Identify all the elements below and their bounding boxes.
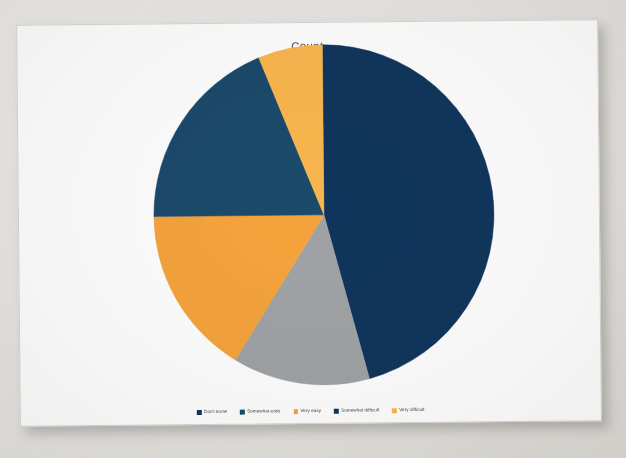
- legend-item-label: Somewhat difficult: [341, 409, 379, 414]
- legend-swatch-icon: [392, 409, 397, 414]
- legend-swatch-icon: [293, 410, 298, 415]
- pie-chart-svg: [150, 41, 497, 388]
- legend-item-label: Very difficult: [399, 408, 424, 413]
- legend-item[interactable]: Very easy: [293, 409, 321, 414]
- legend-item[interactable]: Somewhat difficult: [334, 409, 379, 414]
- legend-item-label: Don't know: [204, 410, 227, 415]
- legend-item-label: Somewhat easy: [247, 410, 280, 415]
- legend: Don't knowSomewhat easyVery easySomewhat…: [21, 407, 601, 417]
- legend-item-label: Very easy: [300, 409, 321, 414]
- screenshot-root: Count Don't knowSomewhat easyVery easySo…: [0, 0, 626, 458]
- legend-swatch-icon: [240, 410, 245, 415]
- legend-item[interactable]: Very difficult: [392, 408, 424, 413]
- legend-swatch-icon: [197, 410, 202, 415]
- legend-swatch-icon: [334, 409, 339, 414]
- pie-chart: [150, 41, 497, 388]
- legend-item[interactable]: Somewhat easy: [240, 410, 280, 415]
- chart-card: Count Don't knowSomewhat easyVery easySo…: [16, 19, 602, 427]
- legend-item[interactable]: Don't know: [197, 410, 227, 415]
- pie-slice-group: [152, 43, 495, 386]
